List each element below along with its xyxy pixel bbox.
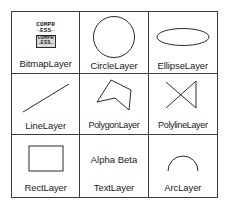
bitmap-compress-icon: COMPR →ESS← COMPR →ESS← <box>12 12 79 58</box>
polygon-shape-icon <box>80 74 147 120</box>
cell-label-circle-layer: CircleLayer <box>91 60 138 74</box>
line-shape-icon <box>12 74 79 120</box>
cell-label-bitmap-layer: BitmapLayer <box>20 58 72 73</box>
bitmap-icon-boxed-line2: →ESS← <box>38 41 54 47</box>
grid-cell-polyline-layer[interactable]: PolylineLayer <box>149 74 217 136</box>
grid-cell-bitmap-layer[interactable]: COMPR →ESS← COMPR →ESS← BitmapLayer <box>12 12 80 74</box>
ellipse-shape-icon <box>149 12 217 60</box>
text-sample-icon: Alpha Beta <box>80 135 147 182</box>
circle-shape-icon <box>80 12 147 60</box>
cell-label-text-layer: TextLayer <box>94 182 134 197</box>
cell-label-arc-layer: ArcLayer <box>164 182 201 197</box>
cell-label-line-layer: LineLayer <box>25 120 66 135</box>
cell-label-polygon-layer: PolygonLayer <box>89 120 140 135</box>
grid-cell-circle-layer[interactable]: CircleLayer <box>80 12 148 74</box>
bitmap-icon-line2: →ESS← <box>36 28 55 34</box>
cell-label-rect-layer: RectLayer <box>24 182 66 197</box>
grid-cell-arc-layer[interactable]: ArcLayer <box>149 135 217 197</box>
text-sample-value: Alpha Beta <box>91 154 137 165</box>
grid-cell-text-layer[interactable]: Alpha Beta TextLayer <box>80 135 148 197</box>
rectangle-shape-icon <box>12 135 79 182</box>
polyline-shape-icon <box>149 74 217 120</box>
legend-figure: COMPR →ESS← COMPR →ESS← BitmapLayer Circ… <box>0 0 229 211</box>
cell-label-ellipse-layer: EllipseLayer <box>158 60 209 74</box>
grid-cell-ellipse-layer[interactable]: EllipseLayer <box>149 12 217 74</box>
grid-cell-rect-layer[interactable]: RectLayer <box>12 135 80 197</box>
arc-shape-icon <box>149 135 217 182</box>
bitmap-icon-boxed: COMPR →ESS← <box>36 35 56 48</box>
grid-cell-line-layer[interactable]: LineLayer <box>12 74 80 136</box>
layer-type-grid: COMPR →ESS← COMPR →ESS← BitmapLayer Circ… <box>11 11 218 198</box>
grid-cell-polygon-layer[interactable]: PolygonLayer <box>80 74 148 136</box>
cell-label-polyline-layer: PolylineLayer <box>158 120 207 135</box>
